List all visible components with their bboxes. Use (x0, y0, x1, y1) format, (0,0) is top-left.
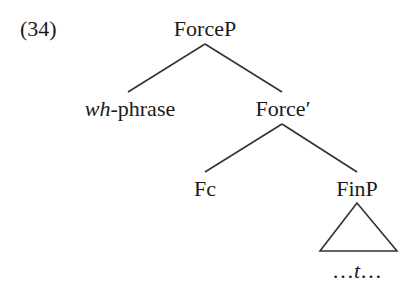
ellipsis-right: … (360, 258, 382, 283)
wh-italic: wh (85, 96, 111, 121)
phrase-text: -phrase (110, 96, 175, 121)
tree-svg: (34) ForceP wh-phrase Force′ Fc FinP …t… (0, 0, 416, 293)
ellipsis-left: … (332, 258, 354, 283)
branch-forcebar-to-finp (282, 124, 357, 172)
syntax-tree-diagram: (34) ForceP wh-phrase Force′ Fc FinP …t… (0, 0, 416, 293)
branch-forcep-to-whphrase (128, 44, 205, 92)
node-wh-phrase: wh-phrase (85, 96, 175, 121)
node-forcep: ForceP (174, 16, 236, 41)
triangle-icon (320, 203, 397, 251)
node-force-bar: Force′ (256, 96, 311, 121)
branch-forcep-to-forcebar (205, 44, 282, 92)
example-number: (34) (20, 16, 57, 41)
branch-forcebar-to-fc (205, 124, 282, 172)
node-terminal-trace: …t… (332, 258, 382, 283)
node-fc: Fc (194, 176, 216, 201)
node-finp: FinP (336, 176, 378, 201)
